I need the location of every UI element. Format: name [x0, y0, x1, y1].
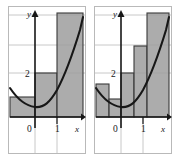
x-tick-label-1-right: 1: [141, 124, 146, 134]
y-axis-arrowhead-right: [118, 10, 125, 17]
riemann-rect-2: [109, 99, 121, 117]
vertical-gridlines-right: [121, 117, 143, 153]
y-axis-label-right: y: [112, 9, 117, 19]
x-tick-label-0-right: 0: [113, 124, 118, 134]
coarse-riemann-plot: 0 1 2 x y: [8, 6, 86, 154]
coarse-riemann-panel: 0 1 2 x y: [8, 6, 86, 154]
riemann-rect-3: [121, 73, 134, 117]
vertical-gridlines-left: [35, 117, 57, 153]
y-axis-arrowhead-left: [32, 10, 39, 17]
fine-riemann-plot: 0 1 2 x y: [94, 6, 172, 154]
x-tick-label-0-left: 0: [27, 124, 32, 134]
y-axis-label-left: y: [26, 9, 31, 19]
y-tick-label-2-left: 2: [25, 69, 30, 79]
x-axis-label-right: x: [160, 124, 165, 134]
riemann-rect-4: [134, 46, 147, 117]
riemann-rect-3: [57, 13, 83, 117]
y-tick-label-2-right: 2: [111, 69, 116, 79]
riemann-sum-figure: 0 1 2 x y: [0, 0, 173, 160]
x-axis-label-left: x: [74, 124, 79, 134]
x-tick-label-1-left: 1: [55, 124, 60, 134]
fine-riemann-panel: 0 1 2 x y: [94, 6, 172, 154]
